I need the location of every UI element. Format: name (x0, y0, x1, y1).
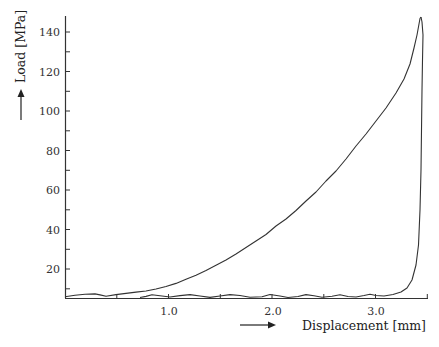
y-tick-label-140: 140 (39, 26, 60, 39)
x-axis-title-arrow-icon (240, 322, 276, 329)
y-tick-label-20: 20 (46, 263, 60, 276)
y-axis-title-arrow-icon (18, 89, 25, 120)
x-axis-title: Displacement [mm] (302, 318, 426, 333)
x-tick-label-2: 2.0 (264, 305, 282, 318)
y-tick-label-80: 80 (46, 145, 60, 158)
x-tick-label-3: 3.0 (367, 305, 385, 318)
y-tick-label-60: 60 (46, 184, 60, 197)
y-tick-label-40: 40 (46, 224, 60, 237)
loading-curve (65, 17, 421, 297)
load-displacement-chart: 20 40 60 80 100 120 140 1.0 2.0 3.0 Disp… (0, 0, 439, 347)
unloading-curve (140, 17, 423, 298)
y-tick-label-120: 120 (39, 66, 60, 79)
y-axis-title: Load [MPa] (13, 10, 28, 83)
x-tick-label-1: 1.0 (160, 305, 178, 318)
y-tick-label-100: 100 (39, 105, 60, 118)
